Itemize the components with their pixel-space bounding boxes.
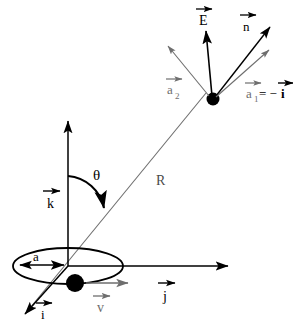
label-a1-text: a [246, 86, 252, 101]
label-a2: a 2 [166, 79, 182, 101]
label-a1: a 1 = − i [245, 83, 293, 104]
label-v: v [93, 296, 110, 315]
vector-R [30, 93, 206, 308]
diagram-canvas: E n a 2 a 1 = − i R θ k [0, 0, 293, 326]
label-a1-subscript: 1 [254, 94, 259, 104]
vector-i [25, 266, 68, 314]
label-j-text: j [162, 289, 167, 304]
label-i-text: i [41, 307, 45, 322]
label-E-text: E [199, 13, 208, 28]
label-a2-text: a [167, 82, 173, 97]
label-k: k [43, 191, 60, 211]
label-n: n [240, 15, 256, 34]
vector-diagram-figure: E n a 2 a 1 = − i R θ k [0, 0, 293, 326]
label-a2-subscript: 2 [175, 91, 180, 101]
label-v-text: v [97, 300, 104, 315]
label-a-radius: a [33, 249, 39, 264]
label-j: j [158, 283, 175, 304]
label-n-text: n [243, 19, 250, 34]
label-E: E [196, 9, 212, 28]
particle-dot [66, 274, 84, 292]
label-a1-rhs: i [281, 86, 285, 101]
label-R: R [156, 173, 166, 188]
label-a1-equals: = − [259, 86, 277, 101]
label-theta: θ [93, 167, 100, 183]
vector-E [206, 31, 212, 96]
label-i: i [36, 303, 52, 322]
vector-a2 [168, 46, 209, 96]
label-k-text: k [47, 196, 54, 211]
